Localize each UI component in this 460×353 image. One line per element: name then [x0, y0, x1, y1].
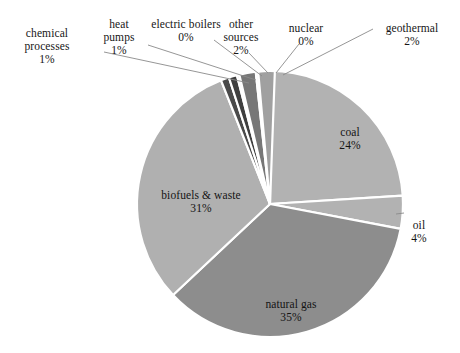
pie-slice-coal[interactable] — [270, 71, 403, 204]
pie-label-value-oil: 4% — [411, 232, 427, 245]
pie-label-electric-boilers: electric boilers0% — [151, 18, 221, 44]
pie-label-name-chemical-processes: chemicalprocesses — [25, 27, 70, 53]
pie-label-name-oil: oil — [411, 219, 427, 232]
pie-label-name-heat-pumps: heatpumps — [103, 18, 134, 44]
pie-label-nuclear: nuclear0% — [289, 22, 324, 48]
pie-label-name-coal: coal — [339, 126, 360, 139]
chemical-processes-leader — [104, 52, 249, 83]
pie-label-geothermal: geothermal2% — [386, 22, 439, 48]
pie-label-value-electric-boilers: 0% — [151, 31, 221, 44]
pie-label-value-biofuels-waste: 31% — [161, 202, 241, 215]
pie-label-name-other-sources: othersources — [223, 18, 258, 44]
pie-label-coal: coal24% — [339, 126, 360, 152]
pie-label-other-sources: othersources2% — [223, 18, 258, 57]
pie-label-value-natural-gas: 35% — [265, 311, 316, 324]
pie-label-chemical-processes: chemicalprocesses1% — [25, 27, 70, 66]
pie-label-biofuels-waste: biofuels & waste31% — [161, 189, 241, 215]
pie-label-name-electric-boilers: electric boilers — [151, 18, 221, 31]
pie-label-name-biofuels-waste: biofuels & waste — [161, 189, 241, 202]
pie-label-natural-gas: natural gas35% — [265, 298, 316, 324]
pie-chart: coal24%oil4%natural gas35%biofuels & was… — [0, 0, 460, 353]
pie-label-value-heat-pumps: 1% — [103, 44, 134, 57]
pie-label-oil: oil4% — [411, 219, 427, 245]
pie-label-heat-pumps: heatpumps1% — [103, 18, 134, 57]
pie-label-value-nuclear: 0% — [289, 35, 324, 48]
pie-label-value-geothermal: 2% — [386, 35, 439, 48]
pie-label-value-chemical-processes: 1% — [25, 53, 70, 66]
pie-label-name-geothermal: geothermal — [386, 22, 439, 35]
pie-label-value-coal: 24% — [339, 139, 360, 152]
pie-label-name-nuclear: nuclear — [289, 22, 324, 35]
pie-label-name-natural-gas: natural gas — [265, 298, 316, 311]
pie-label-value-other-sources: 2% — [223, 44, 258, 57]
